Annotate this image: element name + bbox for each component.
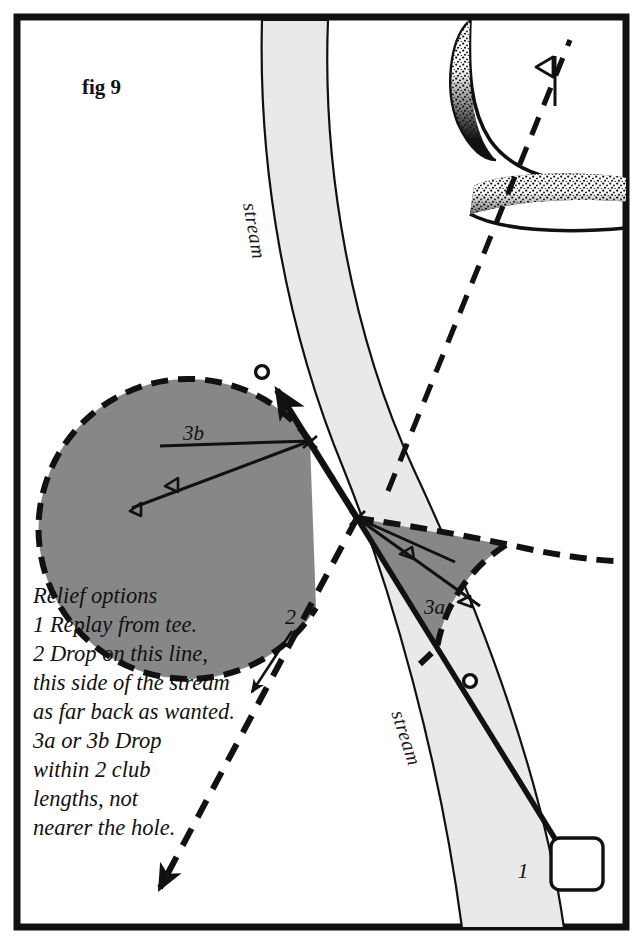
relief-options-line-7: lengths, not	[33, 786, 139, 811]
relief-options-line-4: as far back as wanted.	[33, 699, 235, 724]
relief-options-line-2: 2 Drop on this line,	[33, 641, 208, 666]
figure-page: stream stream	[0, 0, 643, 944]
relief-options-line-5: 3a or 3b Drop	[32, 728, 162, 753]
tee-label: 1	[518, 858, 529, 883]
relief-sector-3b-label: 3b	[182, 421, 204, 445]
golf-relief-diagram: stream stream	[0, 0, 643, 944]
relief-options-line-3: this side of the stream	[33, 670, 230, 695]
tee-box	[551, 838, 603, 890]
drop-line-2-label: 2	[285, 604, 296, 629]
relief-options-line-1: 1 Replay from tee.	[33, 612, 197, 637]
ball-original-line	[464, 675, 477, 688]
relief-options-line-0: Relief options	[32, 583, 158, 608]
ball-in-stream	[256, 366, 269, 379]
relief-options-line-6: within 2 club	[33, 757, 151, 782]
figure-caption: fig 9	[82, 75, 121, 99]
relief-sector-3a-label: 3a	[423, 595, 445, 619]
relief-options-line-8: nearer the hole.	[33, 815, 175, 840]
